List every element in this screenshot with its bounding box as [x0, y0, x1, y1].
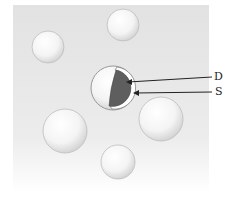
sphere-top-left	[32, 31, 64, 63]
diagram-canvas	[0, 0, 233, 208]
label-d: D	[214, 70, 223, 83]
central-sphere	[91, 66, 136, 110]
sphere-top-center	[107, 9, 139, 41]
diagram: D S	[0, 0, 233, 208]
sphere-left	[43, 109, 87, 153]
sphere-right	[139, 97, 183, 141]
label-s: S	[215, 85, 223, 98]
sphere-bottom	[101, 145, 135, 179]
